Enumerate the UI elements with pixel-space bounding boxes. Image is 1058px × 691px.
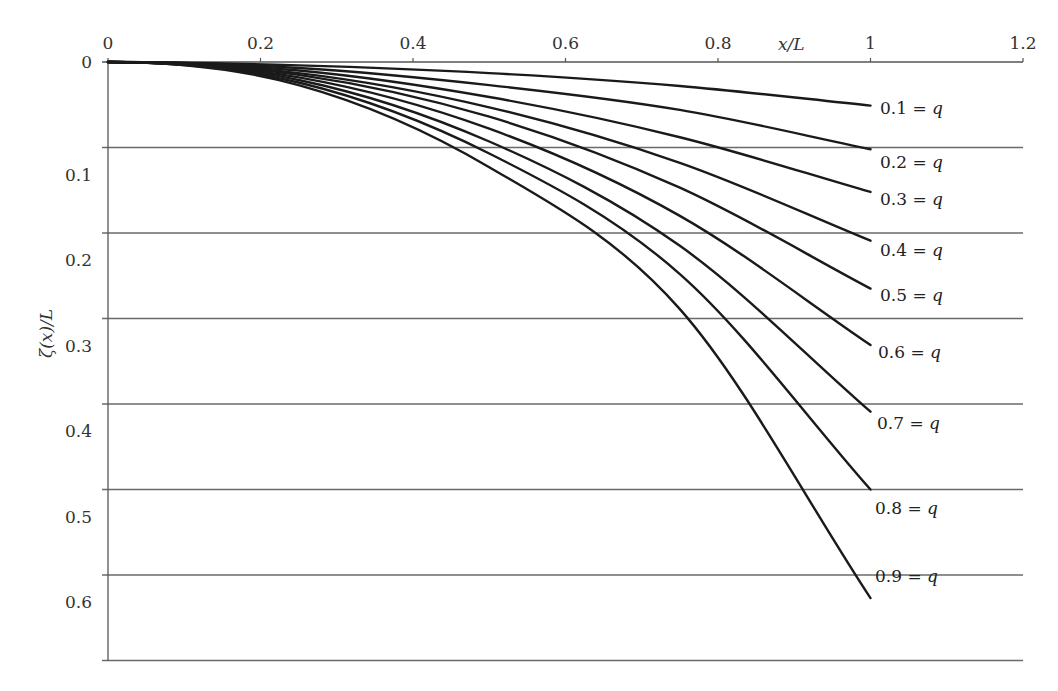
curve-q-0.6	[108, 62, 871, 345]
y-tick-label: 0.2	[65, 250, 92, 270]
x-tick-label: 0	[103, 33, 114, 53]
x-tick-label: 0.4	[399, 33, 426, 53]
curve-label-q-0.1: 0.1 = q	[880, 98, 943, 118]
deflection-chart: 00.20.40.60.811.200.10.20.30.40.50.6 0.1…	[0, 0, 1058, 691]
y-tick-label: 0.4	[65, 421, 92, 441]
x-tick-label: 0.2	[247, 33, 274, 53]
curve-label-q-0.3: 0.3 = q	[880, 189, 943, 209]
curve-labels: 0.1 = q0.2 = q0.3 = q0.4 = q0.5 = q0.6 =…	[875, 98, 943, 586]
x-tick-label: 0.8	[704, 33, 731, 53]
y-axis-title: ζ(x)/L	[36, 309, 56, 358]
curve-label-q-0.7: 0.7 = q	[877, 413, 940, 433]
y-tick-label: 0	[81, 52, 92, 72]
curve-q-0.3	[108, 62, 871, 192]
curve-q-0.4	[108, 62, 871, 241]
curve-q-0.7	[108, 62, 871, 412]
curve-label-q-0.8: 0.8 = q	[875, 498, 938, 518]
x-tick-label: 0.6	[552, 33, 579, 53]
y-tick-label: 0.5	[65, 507, 92, 527]
curve-q-0.2	[108, 62, 871, 149]
curve-label-q-0.5: 0.5 = q	[880, 285, 943, 305]
curve-label-q-0.4: 0.4 = q	[880, 240, 943, 260]
curve-label-q-0.6: 0.6 = q	[878, 342, 941, 362]
curves	[108, 62, 871, 598]
curve-label-q-0.2: 0.2 = q	[880, 152, 943, 172]
curve-label-q-0.9: 0.9 = q	[875, 566, 938, 586]
x-tick-label: 1	[865, 33, 876, 53]
curve-q-0.8	[108, 62, 871, 490]
y-tick-label: 0.1	[65, 165, 92, 185]
y-tick-label: 0.3	[65, 336, 92, 356]
y-tick-label: 0.6	[65, 592, 92, 612]
x-axis-title: x/L	[778, 34, 805, 54]
x-tick-label: 1.2	[1009, 33, 1036, 53]
